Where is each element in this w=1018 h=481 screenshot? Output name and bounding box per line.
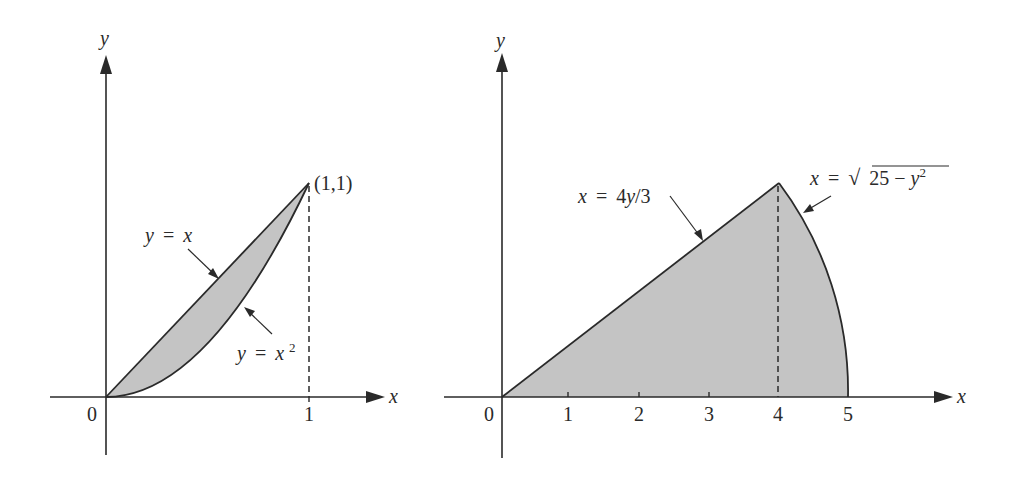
- label-x-equals-4y-over-3: x = 4y/3: [577, 185, 651, 208]
- origin-label-right: 0: [484, 403, 494, 425]
- point-label-1-1: (1,1): [314, 172, 352, 195]
- svg-text:x = √: x = √ 25 − y2: [809, 165, 926, 190]
- x-tick-label-4-right: 4: [773, 403, 783, 425]
- label-y-equals-x-squared: y = x 2: [235, 340, 296, 365]
- svg-text:y = x: y = x: [143, 224, 192, 247]
- y-axis-label-left: y: [98, 27, 109, 50]
- origin-label-left: 0: [87, 403, 97, 425]
- x-axis-arrow-icon: [366, 391, 385, 403]
- shaded-region-right: [502, 183, 848, 397]
- left-panel: y x 0 1 (1,1) y = x y = x 2: [50, 27, 398, 455]
- leader-x-equals-sqrt: [809, 196, 831, 209]
- x-axis-label-right: x: [956, 385, 966, 407]
- leader-y-equals-x: [188, 249, 214, 274]
- x-tick-label-3-right: 3: [704, 403, 714, 425]
- x-tick-label-1-right: 1: [563, 403, 573, 425]
- leader-y-equals-x-squared: [249, 312, 272, 334]
- x-axis-arrow-icon: [934, 391, 953, 403]
- svg-text:x = 4y/3: x = 4y/3: [577, 185, 651, 208]
- x-axis-label-left: x: [388, 385, 398, 407]
- leader-arrow-icon: [803, 204, 814, 213]
- label-y-equals-x: y = x: [143, 224, 192, 247]
- line-y-equals-x: [106, 183, 309, 397]
- y-axis-arrow-icon: [100, 55, 112, 74]
- y-axis-arrow-icon: [496, 53, 508, 72]
- y-axis-label-right: y: [494, 29, 505, 52]
- label-x-equals-sqrt-25-minus-y-squared: x = √ 25 − y2: [809, 165, 949, 190]
- x-tick-label-5-right: 5: [843, 403, 853, 425]
- leader-x-equals-4y-over-3: [670, 196, 699, 235]
- x-tick-label-1-left: 1: [304, 403, 314, 425]
- svg-text:y = x: y = x 2: [235, 340, 296, 365]
- right-panel: y x 0 1 2 3 4 5 x = 4y/3 x = √ 25 − y2: [444, 29, 966, 458]
- x-tick-label-2-right: 2: [634, 403, 644, 425]
- figure: y x 0 1 (1,1) y = x y = x 2: [0, 0, 1018, 481]
